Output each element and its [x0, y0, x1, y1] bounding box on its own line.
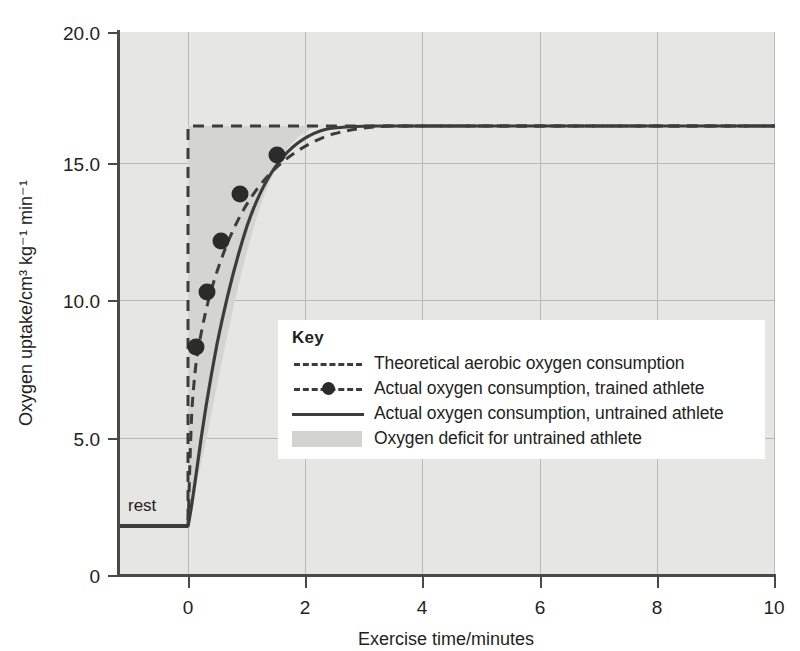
legend-item-untrained: Actual oxygen consumption, untrained ath…: [290, 401, 755, 426]
legend-title: Key: [292, 328, 755, 348]
x-tick-label-4: 4: [417, 597, 428, 618]
legend-item-label: Actual oxygen consumption, trained athle…: [374, 378, 704, 399]
dashed-marker-line-swatch-icon: [290, 378, 366, 400]
y-axis-title: Oxygen uptake/cm³ kg⁻¹ min⁻¹: [16, 180, 36, 426]
y-axis-ticks: [108, 33, 118, 576]
y-tick-label-10: 10.0: [63, 291, 100, 312]
y-tick-label-20: 20.0: [63, 23, 100, 44]
x-tick-label-6: 6: [535, 597, 546, 618]
data-point: [188, 339, 205, 356]
dashed-line-swatch-icon: [290, 353, 366, 375]
data-point: [232, 186, 249, 203]
shaded-area-swatch-icon: [290, 428, 366, 450]
data-point: [269, 147, 286, 164]
oxygen-uptake-chart-figure: 20.0 15.0 10.0 5.0 0 0 2 4 6 8 10 Exerci…: [0, 0, 800, 651]
x-tick-label-2: 2: [300, 597, 311, 618]
legend-item-trained: Actual oxygen consumption, trained athle…: [290, 376, 755, 401]
legend-item-label: Oxygen deficit for untrained athlete: [374, 428, 642, 449]
legend-item-label: Theoretical aerobic oxygen consumption: [374, 353, 684, 374]
legend-item-deficit: Oxygen deficit for untrained athlete: [290, 426, 755, 451]
data-point: [213, 233, 230, 250]
data-point: [199, 284, 216, 301]
solid-line-swatch-icon: [290, 403, 366, 425]
y-tick-label-15: 15.0: [63, 154, 100, 175]
y-tick-label-0: 0: [89, 566, 100, 587]
x-axis-title: Exercise time/minutes: [358, 629, 534, 649]
y-tick-label-5: 5.0: [74, 429, 100, 450]
x-tick-label-8: 8: [652, 597, 663, 618]
chart-legend: Key Theoretical aerobic oxygen consumpti…: [278, 320, 765, 459]
rest-annotation-label: rest: [128, 496, 157, 515]
x-axis-ticks: [189, 575, 775, 588]
x-tick-label-0: 0: [183, 597, 194, 618]
legend-item-label: Actual oxygen consumption, untrained ath…: [374, 403, 724, 424]
legend-item-theoretical: Theoretical aerobic oxygen consumption: [290, 351, 755, 376]
x-tick-label-10: 10: [763, 597, 784, 618]
